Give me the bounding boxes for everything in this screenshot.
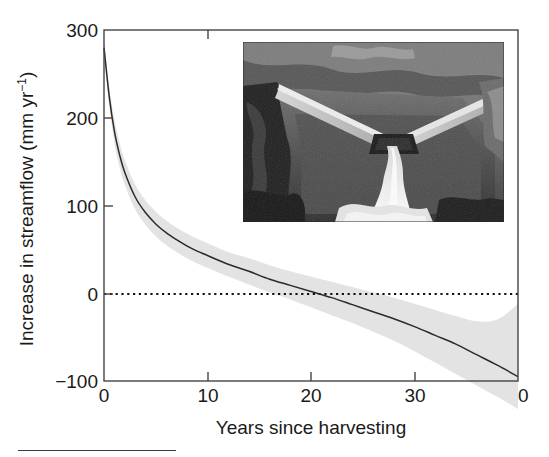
y-axis-ticks — [104, 118, 113, 294]
weir-photograph — [243, 42, 504, 222]
caption-rule — [18, 450, 176, 451]
figure-root: Increase in streamflow (mm yr−1) 300 200… — [0, 0, 549, 457]
weir-photograph-illustration — [243, 42, 504, 222]
